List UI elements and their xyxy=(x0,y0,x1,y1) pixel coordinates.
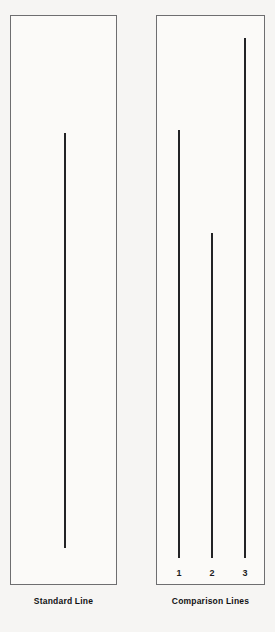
line-length-comparison-figure: Standard Line 1 2 3 Comparison Lines xyxy=(0,0,275,632)
comparison-line-3-stimulus xyxy=(244,38,246,558)
comparison-line-3-label: 3 xyxy=(238,568,252,578)
comparison-line-1-stimulus xyxy=(178,130,180,558)
comparison-line-2-stimulus xyxy=(211,233,213,558)
comparison-line-1-label: 1 xyxy=(172,568,186,578)
standard-line-stimulus xyxy=(64,133,66,548)
comparison-line-2-label: 2 xyxy=(205,568,219,578)
standard-line-caption: Standard Line xyxy=(10,596,117,607)
standard-line-panel xyxy=(10,15,117,585)
comparison-lines-caption: Comparison Lines xyxy=(156,596,265,607)
comparison-lines-panel xyxy=(156,15,265,585)
